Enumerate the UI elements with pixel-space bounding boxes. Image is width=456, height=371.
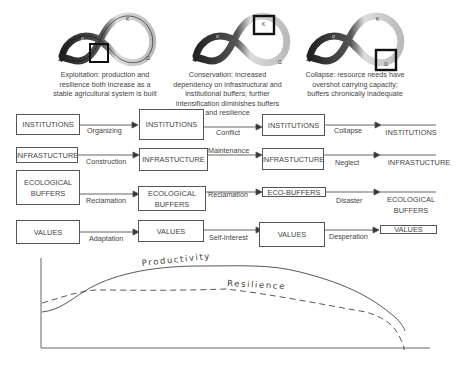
transition-disaster: Disaster [336, 196, 362, 205]
infrastructure-stage-2: INFRASTUCTURE [139, 148, 208, 171]
ecological-buffers-stage-1: ECOLOGICAL BUFFERS [16, 170, 80, 205]
caption-exploitation: Exploitation: production and resilience … [50, 70, 160, 99]
adaptive-cycle-loop-1: K Ω α [58, 16, 153, 63]
ecological-buffers-stage-2: ECOLOGICAL BUFFERS [138, 186, 206, 211]
productivity-label: Productivity [141, 251, 211, 268]
values-stage-1: VALUES [16, 220, 80, 244]
values-stage-4: VALUES [380, 225, 437, 234]
svg-text:Ω: Ω [384, 61, 388, 67]
transition-construction: Construction [86, 157, 126, 166]
infrastructure-stage-4: INFRASTUCTURE [381, 157, 456, 168]
institutions-stage-4: INSTITUTIONS [381, 127, 441, 138]
transition-collapse: Collapse [334, 126, 362, 135]
values-stage-2: VALUES [138, 220, 204, 242]
svg-text:K: K [262, 21, 266, 27]
institutions-stage-1: INSTITUTIONS [16, 114, 80, 135]
transition-self-interest: Self-Interest [209, 233, 248, 242]
eco-buffers-stage-3: ECO-BUFFERS [262, 187, 326, 197]
caption-collapse: Collapse: resource needs have overshot c… [305, 70, 405, 99]
transition-organizing: Organizing [87, 126, 122, 135]
productivity-resilience-chart: Productivity Resilience [41, 251, 430, 350]
ecological-buffers-stage-4: ECOLOGICAL BUFFERS [378, 193, 444, 217]
transition-conflict: Conflict [216, 128, 240, 137]
svg-text:α: α [81, 35, 84, 41]
resilience-line [42, 289, 404, 350]
infrastructure-stage-1: INFRASTUCTURE [16, 147, 78, 163]
resilience-label: Resilience [227, 278, 286, 291]
svg-text:Ω: Ω [146, 55, 150, 61]
svg-text:Ω: Ω [278, 59, 282, 65]
svg-text:α: α [332, 33, 335, 39]
institutions-stage-3: INSTITUTIONS [262, 114, 325, 136]
adaptive-cycle-loop-2: K Ω α [192, 16, 287, 65]
transition-neglect: Neglect [335, 158, 359, 167]
values-stage-3: VALUES [259, 222, 325, 247]
transition-reclamation-1: Reclamation [86, 196, 126, 205]
svg-text:α: α [216, 33, 219, 39]
institutions-stage-2: INSTITUTIONS [139, 109, 204, 140]
productivity-line [42, 266, 405, 331]
adaptive-cycle-loop-3: K Ω α [306, 16, 401, 70]
transition-maintenance: Maintenance [208, 146, 249, 155]
transition-reclamation-2: Reclamation [208, 190, 248, 199]
infrastructure-stage-3: INFRASTUCTURE [262, 148, 324, 170]
transition-adaptation: Adaptation [89, 234, 123, 243]
transition-arrows [78, 122, 436, 235]
transition-desperation: Desperation [329, 232, 368, 241]
